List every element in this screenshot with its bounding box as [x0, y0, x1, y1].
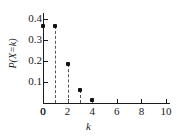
x-tick-10: [166, 99, 167, 103]
x-tick-8: [141, 99, 142, 103]
stem-k-3: [80, 90, 81, 103]
y-tick-0.4: [44, 19, 48, 20]
stem-k-1: [55, 26, 56, 103]
stem-k-2: [68, 64, 69, 103]
y-tick-label-0.1: 0.1: [16, 76, 42, 87]
y-tick-label-0.3: 0.3: [16, 34, 42, 45]
x-axis-label: k: [0, 120, 177, 132]
data-point-k-2: [66, 62, 70, 66]
data-point-k-0: [41, 24, 45, 28]
x-tick-0: [43, 99, 44, 103]
y-tick-0.2: [44, 61, 48, 62]
x-axis-line: [43, 103, 170, 104]
data-point-k-4: [90, 98, 94, 102]
y-axis-label: P(X=k): [7, 14, 18, 94]
y-tick-label-0.2: 0.2: [16, 55, 42, 66]
probability-mass-function-chart: 00.10.20.30.4 0246810 P(X=k) k: [0, 0, 177, 139]
y-tick-label-0.4: 0.4: [16, 13, 42, 24]
y-tick-0.1: [44, 82, 48, 83]
x-tick-label-2: 2: [58, 105, 78, 118]
data-point-k-3: [78, 88, 82, 92]
y-tick-0.3: [44, 40, 48, 41]
data-point-k-1: [53, 24, 57, 28]
x-tick-label-10: 10: [156, 105, 176, 118]
x-tick-6: [117, 99, 118, 103]
x-tick-label-0: 0: [33, 105, 53, 118]
x-tick-label-8: 8: [131, 105, 151, 118]
x-tick-label-4: 4: [82, 105, 102, 118]
x-tick-label-6: 6: [107, 105, 127, 118]
